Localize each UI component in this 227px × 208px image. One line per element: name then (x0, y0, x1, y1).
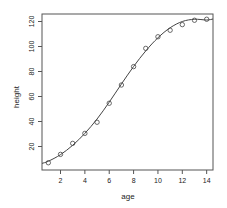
y-tick-label: 40 (28, 118, 35, 126)
x-tick-label: 14 (203, 177, 211, 184)
y-tick-label: 60 (28, 93, 35, 101)
x-tick-label: 8 (132, 177, 136, 184)
plot-background (0, 0, 227, 208)
x-tick-label: 12 (178, 177, 186, 184)
y-tick-label: 120 (28, 16, 35, 28)
y-axis-label: height (12, 85, 21, 108)
scatter-plot-with-fitted-curve: 20406080100120 2468101214 age height (0, 0, 227, 208)
y-tick-label: 20 (28, 143, 35, 151)
x-tick-label: 4 (83, 177, 87, 184)
x-tick-label: 6 (107, 177, 111, 184)
x-tick-label: 10 (154, 177, 162, 184)
x-tick-label: 2 (59, 177, 63, 184)
y-tick-label: 80 (28, 68, 35, 76)
x-axis-label: age (121, 192, 135, 201)
y-tick-label: 100 (28, 41, 35, 53)
